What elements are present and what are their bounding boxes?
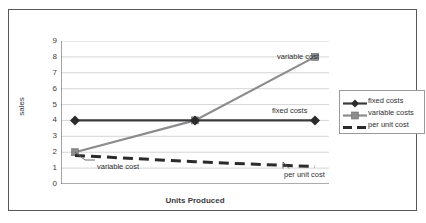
y-tick-2: 2 [43, 148, 57, 156]
legend-entry-variable-costs[interactable]: variable costs [342, 106, 422, 118]
y-tick-1: 1 [43, 164, 57, 172]
y-tick-8: 8 [43, 53, 57, 61]
y-axis-tick-labels: 9 8 7 6 5 4 3 2 1 0 [41, 41, 57, 184]
legend-swatch-per-unit-cost-icon [342, 119, 368, 130]
legend-entry-per-unit-cost[interactable]: per unit cost [342, 118, 422, 130]
y-tick-9: 9 [43, 37, 57, 45]
y-tick-4: 4 [43, 116, 57, 124]
legend-label-per-unit-cost: per unit cost [368, 120, 409, 129]
chart-legend[interactable]: fixed costs variable costs per unit [339, 90, 425, 134]
annotation-variable-cost-top: variable cost [277, 52, 319, 61]
annotation-fixed-costs: fixed costs [272, 106, 307, 115]
x-axis-title: Units Produced [61, 196, 329, 205]
legend-swatch-variable-costs-icon [342, 107, 368, 118]
annotation-variable-cost-low: variable cost [97, 162, 139, 171]
chart-frame: sales 9 8 7 6 5 4 3 2 1 0 [8, 9, 417, 211]
annotation-per-unit-cost: per unit cost [284, 170, 325, 179]
marker-fixed-costs-0 [70, 115, 80, 125]
y-tick-5: 5 [43, 101, 57, 109]
y-axis-title: sales [17, 87, 26, 127]
y-tick-7: 7 [43, 69, 57, 77]
marker-fixed-costs-2 [310, 115, 320, 125]
chart-screenshot: sales 9 8 7 6 5 4 3 2 1 0 [0, 0, 426, 223]
y-tick-6: 6 [43, 85, 57, 93]
legend-swatch-fixed-costs-icon [342, 95, 368, 106]
y-tick-3: 3 [43, 132, 57, 140]
y-tick-0: 0 [43, 180, 57, 188]
legend-label-variable-costs: variable costs [368, 108, 414, 117]
legend-label-fixed-costs: fixed costs [368, 96, 403, 105]
legend-entry-fixed-costs[interactable]: fixed costs [342, 94, 422, 106]
